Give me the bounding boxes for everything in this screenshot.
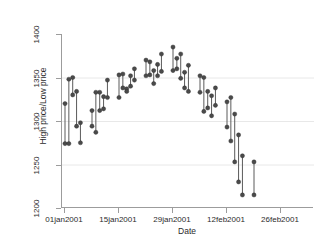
y-tick-label-1350: 1350 bbox=[32, 63, 41, 93]
y-tick-label-1300: 1300 bbox=[32, 107, 41, 137]
plot-region bbox=[61, 34, 313, 208]
y-tick-label-1250: 1250 bbox=[32, 150, 41, 180]
y-tick-mark-1200 bbox=[56, 208, 61, 209]
high-low-range-plot bbox=[62, 34, 314, 208]
x-tick-mark-0 bbox=[64, 208, 65, 213]
x-tick-mark-3 bbox=[226, 208, 227, 213]
graph-region: High price/Low price 1400 1350 1300 1250… bbox=[14, 8, 314, 240]
x-tick-label-4: 26feb2001 bbox=[245, 215, 315, 224]
chart-screenshot: High price/Low price 1400 1350 1300 1250… bbox=[0, 0, 321, 249]
x-tick-mark-1 bbox=[118, 208, 119, 213]
x-tick-mark-4 bbox=[280, 208, 281, 213]
y-tick-label-1400: 1400 bbox=[32, 20, 41, 50]
x-axis-title: Date bbox=[61, 226, 313, 236]
x-tick-mark-2 bbox=[172, 208, 173, 213]
